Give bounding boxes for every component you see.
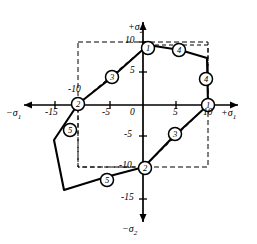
- x-axis-positive-sign: +: [221, 107, 228, 118]
- y-tick-minus-10: -10: [119, 161, 132, 171]
- node-label-4-right: 4: [200, 73, 213, 86]
- node-label-5-left: 5: [64, 124, 77, 137]
- y-axis-positive-subscript: 2: [140, 27, 144, 35]
- x-axis-negative-label: −σ1: [6, 108, 21, 121]
- y-axis-negative-label: −σ2: [122, 224, 137, 237]
- y-tick-minus-5: -5: [124, 130, 132, 140]
- node-label-4-top: 4: [173, 44, 186, 57]
- origin-label: 0: [130, 108, 135, 118]
- x-tick-minus-5: -5: [102, 108, 110, 118]
- node-label-5-bottom: 5: [101, 174, 114, 187]
- node-label-3-lower: 3: [169, 128, 182, 141]
- x-tick-minus-10: -10: [68, 85, 81, 95]
- y-axis-positive-sign: +: [128, 21, 135, 32]
- x-axis-positive-label: +σ1: [221, 108, 236, 121]
- figure-container: 1 4 4 1 3 2 5 5 2 3 -15 -10 -5 5 10 10 5…: [0, 0, 257, 244]
- x-tick-10: 10: [203, 108, 213, 118]
- node-label-3-upper: 3: [106, 71, 119, 84]
- y-axis-negative-sign: −: [122, 223, 129, 234]
- y-axis-positive-label: +σ2: [128, 22, 143, 35]
- y-tick-minus-15: -15: [121, 193, 134, 203]
- x-tick-5: 5: [173, 108, 178, 118]
- x-axis-negative-sign: −: [6, 107, 13, 118]
- node-label-1-top: 1: [142, 42, 155, 55]
- y-axis-negative-subscript: 2: [134, 229, 138, 237]
- y-tick-10: 10: [125, 36, 135, 46]
- node-label-2-left: 2: [72, 98, 85, 111]
- x-tick-minus-15: -15: [45, 108, 58, 118]
- y-tick-5: 5: [130, 66, 135, 76]
- node-label-2-bottom: 2: [139, 162, 152, 175]
- x-axis-positive-subscript: 1: [233, 113, 237, 121]
- x-axis-negative-subscript: 1: [18, 113, 22, 121]
